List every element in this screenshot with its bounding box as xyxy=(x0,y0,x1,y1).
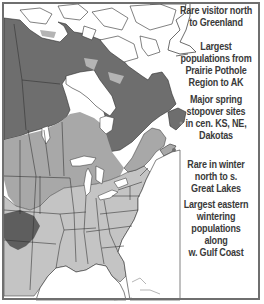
note-prairie: Largest populations from Prairie Pothole… xyxy=(180,40,252,88)
note-text: Rare visitor north xyxy=(180,4,252,16)
note-greenland: Rare visitor north to Greenland xyxy=(180,4,252,28)
note-text: north to s. xyxy=(180,170,252,182)
note-text: Region to AK xyxy=(180,76,252,88)
note-text: Dakotas xyxy=(180,129,252,141)
note-text: stopover sites xyxy=(180,105,252,117)
note-great-lakes: Rare in winter north to s. Great Lakes xyxy=(180,158,252,194)
note-text: Prairie Pothole xyxy=(180,64,252,76)
note-gulf: Largest eastern wintering populations al… xyxy=(180,198,252,258)
note-text: Largest eastern xyxy=(180,198,252,210)
note-text: w. Gulf Coast xyxy=(180,246,252,258)
range-map: Rare visitor north to Greenland Largest … xyxy=(0,0,264,304)
rare-winter-dot xyxy=(172,148,176,152)
note-text: Major spring xyxy=(180,93,252,105)
note-text: populations from xyxy=(180,52,252,64)
note-stopover: Major spring stopover sites in cen. KS, … xyxy=(180,93,252,141)
note-text: Largest xyxy=(180,40,252,52)
note-text: Great Lakes xyxy=(180,182,252,194)
note-text: populations along xyxy=(180,222,252,246)
note-text: wintering xyxy=(180,210,252,222)
note-text: to Greenland xyxy=(180,16,252,28)
note-text: Rare in winter xyxy=(180,158,252,170)
note-text: in cen. KS, NE, xyxy=(180,117,252,129)
